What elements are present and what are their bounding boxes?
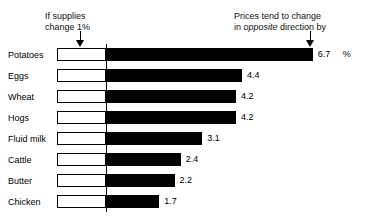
category-label: Cattle [8,155,32,166]
chart-row: Butter2.2 [0,173,384,194]
price-annotation-pre: in [234,22,244,32]
supply-change-box [57,195,106,208]
bar-value-label: 1.7 [164,196,177,207]
bar-value-label: 4.2 [241,112,254,123]
supply-change-box [57,174,106,187]
price-annotation-post: direction by [278,22,327,32]
price-annotation: Prices tend to change in opposite direct… [234,11,326,33]
supply-annotation: If supplies change 1% [45,11,90,33]
price-annotation-emphasis: opposite [244,22,278,32]
chart-row: Chicken1.7 [0,194,384,215]
value-bar [107,48,313,61]
value-bar [107,69,242,82]
supply-change-box [57,111,106,124]
chart-row: Hogs4.2 [0,110,384,131]
value-bar [107,111,236,124]
arrow-head [76,40,84,47]
chart-row: Potatoes6.7% [0,47,384,68]
chart-row: Eggs4.4 [0,68,384,89]
value-bar [107,195,159,208]
arrow-head [306,40,314,47]
category-label: Potatoes [8,50,44,61]
chart-row: Wheat4.2 [0,89,384,110]
supply-change-box [57,48,106,61]
price-annotation-line2: in opposite direction by [234,22,326,33]
supply-annotation-line1: If supplies [45,11,90,22]
category-label: Chicken [8,197,41,208]
category-label: Wheat [8,92,34,103]
chart-row: Cattle2.4 [0,152,384,173]
supply-annotation-line2: change 1% [45,22,90,33]
price-annotation-line1: Prices tend to change [234,11,326,22]
value-bar [107,90,236,103]
price-elasticity-bar-chart: If supplies change 1% Prices tend to cha… [0,0,384,219]
category-label: Butter [8,176,32,187]
category-label: Hogs [8,113,29,124]
supply-change-box [57,153,106,166]
chart-row: Fluid milk3.1 [0,131,384,152]
value-bar [107,153,181,166]
supply-change-box [57,90,106,103]
value-bar [107,174,175,187]
category-label: Fluid milk [8,134,46,145]
bar-value-label: 6.7 [318,49,331,60]
chart-rows: Potatoes6.7%Eggs4.4Wheat4.2Hogs4.2Fluid … [0,47,384,215]
supply-change-box [57,132,106,145]
bar-value-label: 4.4 [247,70,260,81]
unit-symbol: % [343,49,351,60]
category-label: Eggs [8,71,29,82]
value-bar [107,132,202,145]
bar-value-label: 2.4 [186,154,199,165]
bar-value-label: 3.1 [207,133,220,144]
bar-value-label: 4.2 [241,91,254,102]
bar-value-label: 2.2 [180,175,193,186]
supply-change-box [57,69,106,82]
